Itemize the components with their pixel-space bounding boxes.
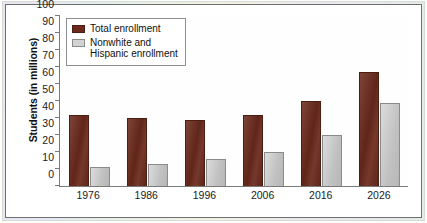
bar-total-enrollment: [301, 101, 321, 186]
y-axis-tick-label: 70: [30, 49, 54, 61]
legend-swatch-total-enrollment: [72, 25, 85, 33]
y-axis-tick-label: 10: [30, 151, 54, 163]
legend-item-total: Total enrollment: [72, 23, 178, 35]
x-axis-labels: 197619861996200620162026: [59, 189, 408, 201]
y-axis-tick-label: 80: [30, 32, 54, 44]
bar-group: [234, 16, 292, 186]
legend-swatch-nonwhite-hispanic-enrollment: [72, 39, 85, 47]
bar-nonwhite-hispanic-enrollment: [322, 135, 342, 186]
y-axis-tick-label: 40: [30, 100, 54, 112]
bar-group: [350, 16, 408, 186]
bar-nonwhite-hispanic-enrollment: [148, 164, 168, 186]
legend-label-nonwhite-hispanic-enrollment: Nonwhite and Hispanic enrollment: [90, 37, 178, 60]
x-axis-tick-label: 2016: [292, 189, 350, 201]
y-axis-tick-label: 20: [30, 134, 54, 146]
legend-label-total-enrollment: Total enrollment: [90, 23, 161, 35]
bar-total-enrollment: [243, 115, 263, 186]
bar-nonwhite-hispanic-enrollment: [264, 152, 284, 186]
x-axis-tick-label: 2026: [350, 189, 408, 201]
y-axis-tick-label: 60: [30, 66, 54, 78]
y-axis-tick-label: 100: [30, 0, 54, 10]
bar-chart: Students (in millions) 01020304050607080…: [5, 4, 422, 218]
y-axis-tick-label: 0: [30, 168, 54, 180]
bar-nonwhite-hispanic-enrollment: [206, 159, 226, 186]
legend-item-nonwhite: Nonwhite and Hispanic enrollment: [72, 37, 178, 60]
bar-total-enrollment: [359, 72, 379, 186]
y-axis-tick-label: 90: [30, 15, 54, 27]
chart-legend: Total enrollment Nonwhite and Hispanic e…: [66, 18, 186, 66]
x-axis-tick-label: 1986: [117, 189, 175, 201]
bar-group: [292, 16, 350, 186]
x-axis-tick-label: 2006: [234, 189, 292, 201]
bar-nonwhite-hispanic-enrollment: [380, 103, 400, 186]
x-axis-tick-label: 1976: [59, 189, 117, 201]
y-axis-tick-label: 50: [30, 83, 54, 95]
y-axis-tick-label: 30: [30, 117, 54, 129]
x-axis-tick-label: 1996: [175, 189, 233, 201]
bar-total-enrollment: [127, 118, 147, 186]
bar-total-enrollment: [185, 120, 205, 186]
chart-page: Students (in millions) 01020304050607080…: [0, 0, 427, 223]
bar-total-enrollment: [69, 115, 89, 186]
bar-nonwhite-hispanic-enrollment: [90, 167, 110, 186]
